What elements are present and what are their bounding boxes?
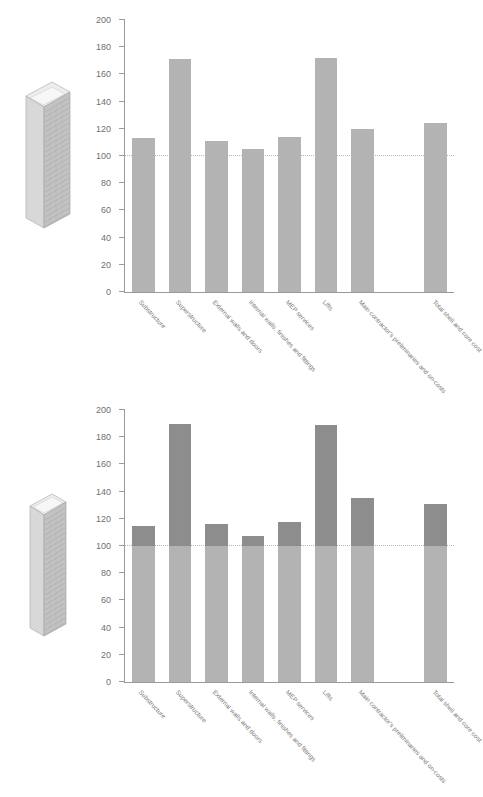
bar-segment-below-reference [169,156,192,292]
y-tick-label: 80 [101,569,111,578]
bar-segment-below-reference [132,156,155,292]
y-tick-label: 0 [106,678,111,687]
bar-segment-above-reference [351,129,374,156]
bar-segment-below-reference [242,156,265,292]
y-tick-label: 140 [96,487,111,496]
category-label-4: MEP services [284,689,315,722]
y-tick-label: 60 [101,206,111,215]
y-tick-label: 20 [101,650,111,659]
bar-segment-below-reference [424,156,447,292]
bar-segment-above-reference [278,137,301,156]
category-label-5: Lifts [321,689,334,702]
bar-top-1 [169,59,192,292]
bar-top-2 [205,141,228,292]
bar-segment-above-reference [424,504,447,546]
bar-top-7 [424,123,447,292]
tower-building-icon-wide [8,68,82,388]
category-label-3: Internal walls, finishes and fittings [248,299,318,373]
y-tick-label: 180 [96,433,111,442]
bar-bottom-5 [315,425,338,682]
bar-segment-below-reference [205,546,228,682]
y-tick-label: 80 [101,179,111,188]
bar-bottom-4 [278,522,301,682]
bar-segment-below-reference [278,156,301,292]
bar-segment-above-reference [242,149,265,156]
bar-series-top [125,20,454,292]
plot-area-bottom: 020406080100120140160180200 [124,410,454,683]
chart-panel-bottom: 020406080100120140160180200 Substructure… [0,398,466,788]
bar-top-3 [242,149,265,292]
tower-building-icon-tall [8,428,82,748]
bar-segment-above-reference [205,524,228,546]
bar-segment-below-reference [169,546,192,682]
y-tick-label: 40 [101,233,111,242]
y-tick-label: 160 [96,70,111,79]
bar-segment-below-reference [132,546,155,682]
bar-chart-top: 020406080100120140160180200 Substructure… [84,14,460,314]
y-tick-label: 180 [96,43,111,52]
bar-segment-above-reference [424,123,447,156]
tower-building-svg-tall [8,428,82,648]
bar-series-bottom [125,410,454,682]
bar-segment-below-reference [278,546,301,682]
bar-top-0 [132,138,155,292]
bar-segment-above-reference [169,59,192,156]
bar-segment-below-reference [242,546,265,682]
bar-segment-above-reference [351,498,374,546]
category-label-6: Main contractor's preliminaries and on-c… [358,689,448,785]
bar-segment-above-reference [132,138,155,156]
bar-bottom-2 [205,524,228,682]
y-tick-label: 200 [96,406,111,415]
x-axis-categories-top: SubstructureSuperstructureExternal walls… [124,293,454,403]
y-tick-label: 20 [101,260,111,269]
bar-segment-above-reference [132,526,155,546]
y-tick-label: 100 [96,542,111,551]
category-label-0: Substructure [138,689,167,720]
category-label-3: Internal walls, finishes and fittings [248,689,318,763]
bar-bottom-7 [424,504,447,682]
y-tick-label: 40 [101,623,111,632]
y-tick-label: 120 [96,124,111,133]
bar-segment-above-reference [278,522,301,546]
category-label-1: Superstructure [174,689,207,724]
bar-segment-above-reference [169,424,192,546]
chart-panel-top: 020406080100120140160180200 Substructure… [0,8,466,398]
category-label-0: Substructure [138,299,167,330]
y-tick-label: 140 [96,97,111,106]
bar-segment-below-reference [315,156,338,292]
y-tick-label: 200 [96,16,111,25]
bar-segment-below-reference [315,546,338,682]
category-label-1: Superstructure [174,299,207,334]
bar-top-5 [315,58,338,292]
y-tick-label: 160 [96,460,111,469]
category-label-6: Main contractor's preliminaries and on-c… [358,299,448,395]
category-label-5: Lifts [321,299,334,312]
tower-building-svg-wide [8,68,82,248]
bar-segment-below-reference [351,546,374,682]
bar-bottom-3 [242,536,265,682]
bar-chart-bottom: 020406080100120140160180200 Substructure… [84,404,460,704]
bar-bottom-0 [132,526,155,682]
bar-segment-above-reference [315,58,338,156]
x-axis-categories-bottom: SubstructureSuperstructureExternal walls… [124,683,454,793]
bar-bottom-6 [351,498,374,682]
bar-segment-above-reference [242,536,265,546]
y-tick-label: 60 [101,596,111,605]
y-tick-label: 120 [96,514,111,523]
bar-segment-below-reference [351,156,374,292]
bar-top-4 [278,137,301,292]
category-label-7: Total shell and core cost [431,299,482,354]
y-tick-label: 0 [106,288,111,297]
bar-segment-above-reference [205,141,228,156]
bar-bottom-1 [169,424,192,682]
bar-segment-below-reference [424,546,447,682]
category-label-4: MEP services [284,299,315,332]
category-label-7: Total shell and core cost [431,689,482,744]
bar-segment-above-reference [315,425,338,546]
plot-area-top: 020406080100120140160180200 [124,20,454,293]
bar-top-6 [351,129,374,292]
bar-segment-below-reference [205,156,228,292]
y-tick-label: 100 [96,152,111,161]
